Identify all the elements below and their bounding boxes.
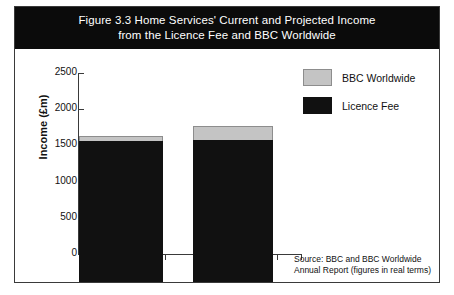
y-tick-1000: 1000 <box>23 182 85 183</box>
figure-card: Figure 3.3 Home Services' Current and Pr… <box>14 6 440 283</box>
source-note-line-2: Annual Report (figures in real terms) <box>294 265 431 276</box>
y-tick-label-2500: 2500 <box>55 66 77 77</box>
legend-item-licence-fee: Licence Fee <box>303 97 415 114</box>
plot-region: Income (£m) 2500 2000 1500 1000 500 0 <box>15 49 439 282</box>
legend-swatch-bbc-worldwide <box>303 69 332 86</box>
legend-item-bbc-worldwide: BBC Worldwide <box>303 69 415 86</box>
chart-legend: BBC Worldwide Licence Fee <box>303 69 415 125</box>
y-tick-0: 0 <box>23 254 85 255</box>
y-tick-2500: 2500 <box>23 73 85 74</box>
legend-label-bbc-worldwide: BBC Worldwide <box>342 72 415 84</box>
figure-title-line-1: Figure 3.3 Home Services' Current and Pr… <box>78 13 375 28</box>
y-tick-mark <box>78 73 84 74</box>
source-note-line-1: Source: BBC and BBC Worldwide <box>294 254 431 265</box>
bar-segment-licence-fee <box>193 140 273 282</box>
x-tick-mark <box>165 255 166 260</box>
bar-segment-bbc-worldwide <box>193 126 273 140</box>
y-tick-500: 500 <box>23 218 85 219</box>
y-tick-label-2000: 2000 <box>55 102 77 113</box>
y-axis-title: Income (£m) <box>37 72 49 182</box>
legend-label-licence-fee: Licence Fee <box>342 100 399 112</box>
x-axis-label-1997-8: 1997/8 <box>81 263 161 274</box>
x-axis-label-2002-3: 2002/3 <box>193 263 273 274</box>
source-note: Source: BBC and BBC Worldwide Annual Rep… <box>294 254 431 276</box>
bar-1997-8 <box>79 77 163 282</box>
bar-2002-3 <box>193 77 273 282</box>
y-tick-2000: 2000 <box>23 109 85 110</box>
figure-title-line-2: from the Licence Fee and BBC Worldwide <box>118 28 336 43</box>
y-tick-1500: 1500 <box>23 145 85 146</box>
y-tick-label-0: 0 <box>71 247 77 258</box>
y-tick-label-500: 500 <box>60 211 77 222</box>
bar-segment-licence-fee <box>79 141 163 282</box>
y-tick-label-1000: 1000 <box>55 175 77 186</box>
legend-swatch-licence-fee <box>303 97 332 114</box>
y-tick-label-1500: 1500 <box>55 138 77 149</box>
figure-title-band: Figure 3.3 Home Services' Current and Pr… <box>15 7 439 49</box>
x-tick-mark <box>277 255 278 260</box>
